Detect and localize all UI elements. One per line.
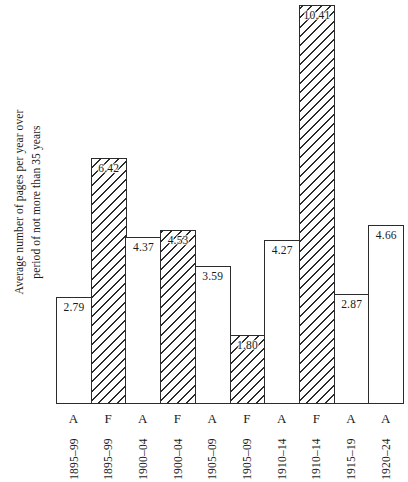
x-tick-column: A1915–19 — [334, 405, 369, 482]
bar-value-label: 1.80 — [231, 339, 265, 351]
bar-value-label: 4.27 — [265, 244, 299, 256]
x-tick-letter: A — [334, 412, 369, 426]
x-tick-period: 1910–14 — [299, 431, 334, 482]
bar-value-label: 6.42 — [92, 162, 126, 174]
y-axis-label: Average number of pages per year over pe… — [0, 0, 56, 404]
bar-a-1915-19: 2.87 — [334, 294, 370, 404]
x-tick-column: F1900–04 — [160, 405, 195, 482]
bar-value-label: 4.53 — [161, 234, 195, 246]
bar-value-label: 4.37 — [126, 241, 160, 253]
x-tick-column: F1910–14 — [299, 405, 334, 482]
x-tick-period-text: 1920–24 — [380, 438, 392, 480]
bar-a-1895-99: 2.79 — [56, 297, 92, 404]
x-tick-period: 1900–04 — [125, 431, 160, 482]
x-tick-period: 1900–04 — [160, 431, 195, 482]
x-tick-column: F1895–99 — [91, 405, 126, 482]
x-tick-column: A1895–99 — [56, 405, 91, 482]
x-tick-period: 1910–14 — [264, 431, 299, 482]
x-tick-letter: A — [195, 412, 230, 426]
bar-f-1895-99: 6.42 — [91, 158, 127, 404]
bar-a-1905-09: 3.59 — [195, 266, 231, 404]
bar-a-1900-04: 4.37 — [125, 237, 161, 405]
bar-value-label: 4.66 — [369, 229, 403, 241]
bar-value-label: 3.59 — [196, 270, 230, 282]
x-axis-baseline — [56, 403, 403, 404]
bar-a-1920-24: 4.66 — [368, 225, 404, 404]
bar-a-1910-14: 4.27 — [264, 240, 300, 404]
x-tick-period: 1905–09 — [195, 431, 230, 482]
bar-series: 2.796.424.374.533.591.804.2710.412.874.6… — [56, 0, 403, 404]
x-tick-column: F1905–09 — [230, 405, 265, 482]
y-axis-label-line-1: Average number of pages per year over — [11, 110, 28, 295]
x-tick-period-text: 1895–99 — [67, 438, 79, 480]
bar-f-1905-09: 1.80 — [230, 335, 266, 404]
x-tick-letter: F — [230, 412, 265, 426]
x-tick-period-text: 1905–09 — [241, 438, 253, 480]
x-tick-column: A1900–04 — [125, 405, 160, 482]
x-tick-period: 1895–99 — [91, 431, 126, 482]
x-tick-letter: F — [160, 412, 195, 426]
x-tick-period-text: 1915–19 — [345, 438, 357, 480]
bar-f-1900-04: 4.53 — [160, 230, 196, 404]
x-tick-letter: F — [299, 412, 334, 426]
x-tick-letter: A — [56, 412, 91, 426]
x-tick-letter: A — [125, 412, 160, 426]
x-tick-period-text: 1900–04 — [171, 438, 183, 480]
x-tick-letter: F — [91, 412, 126, 426]
y-axis-label-line-2: period of not more than 35 years — [28, 110, 45, 295]
x-tick-period-text: 1910–14 — [276, 438, 288, 480]
x-tick-column: A1920–24 — [368, 405, 403, 482]
x-tick-column: A1905–09 — [195, 405, 230, 482]
bar-chart-figure: Average number of pages per year over pe… — [0, 0, 408, 482]
bar-f-1910-14: 10.41 — [299, 5, 335, 404]
x-tick-period: 1905–09 — [230, 431, 265, 482]
x-tick-letter: A — [368, 412, 403, 426]
x-tick-period-text: 1900–04 — [137, 438, 149, 480]
x-tick-period: 1915–19 — [334, 431, 369, 482]
x-tick-period-text: 1910–14 — [310, 438, 322, 480]
plot-area: 2.796.424.374.533.591.804.2710.412.874.6… — [56, 0, 403, 404]
x-tick-letter: A — [264, 412, 299, 426]
bar-value-label: 2.79 — [57, 301, 91, 313]
x-tick-column: A1910–14 — [264, 405, 299, 482]
x-tick-period-text: 1905–09 — [206, 438, 218, 480]
x-tick-period: 1895–99 — [56, 431, 91, 482]
bar-value-label: 2.87 — [335, 298, 369, 310]
x-axis-tick-labels: A1895–99F1895–99A1900–04F1900–04A1905–09… — [56, 405, 403, 482]
x-tick-period-text: 1895–99 — [102, 438, 114, 480]
bar-value-label: 10.41 — [300, 9, 334, 21]
x-tick-period: 1920–24 — [368, 431, 403, 482]
